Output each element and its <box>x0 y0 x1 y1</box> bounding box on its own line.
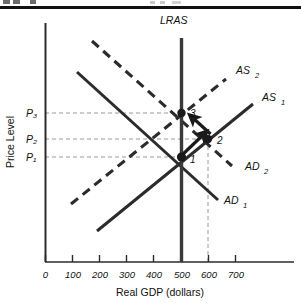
x-tick-label-700: 700 <box>228 269 245 280</box>
x-axis-ticks <box>46 255 236 262</box>
point-label-2: 2 <box>216 135 223 146</box>
figure-root: LRAS AS 2 AS 1 AD 2 AD 1 3 2 1 P₃ P₂ P₁ … <box>0 0 301 303</box>
point-label-3: 3 <box>190 108 196 119</box>
x-tick-label-600: 600 <box>201 269 218 280</box>
curve-label-ad1-subscript: 1 <box>243 201 247 210</box>
y-tick-label-p2: P₂ <box>26 133 37 145</box>
x-tick-label-200: 200 <box>91 269 109 280</box>
price-guidelines <box>45 113 208 262</box>
curve-label-as1-subscript: 1 <box>281 98 285 107</box>
point-label-1: 1 <box>190 154 196 165</box>
curve-label-lras: LRAS <box>160 14 187 26</box>
x-tick-label-0: 0 <box>43 269 49 280</box>
x-tick-label-300: 300 <box>119 269 136 280</box>
curve-label-as2: AS <box>235 64 250 76</box>
x-tick-label-500: 500 <box>174 269 191 280</box>
axes-frame <box>45 23 294 262</box>
curve-as1-line <box>97 104 253 231</box>
x-axis-title: Real GDP (dollars) <box>116 286 204 298</box>
point-marker-2 <box>204 135 212 143</box>
curve-label-as1: AS <box>261 91 276 103</box>
curve-label-as2-subscript: 2 <box>254 71 260 80</box>
curve-label-ad2: AD <box>244 160 260 172</box>
curve-label-ad1: AD <box>223 194 239 206</box>
point-marker-3 <box>177 109 185 117</box>
ad-as-chart: LRAS AS 2 AS 1 AD 2 AD 1 3 2 1 P₃ P₂ P₁ … <box>0 0 301 303</box>
x-tick-label-100: 100 <box>65 269 82 280</box>
y-axis-title: Price Level <box>4 116 16 168</box>
x-tick-label-400: 400 <box>146 269 163 280</box>
curves <box>71 38 253 262</box>
y-tick-label-p1: P₁ <box>26 151 37 163</box>
y-tick-label-p3: P₃ <box>26 107 37 119</box>
curve-label-ad2-subscript: 2 <box>263 167 269 176</box>
